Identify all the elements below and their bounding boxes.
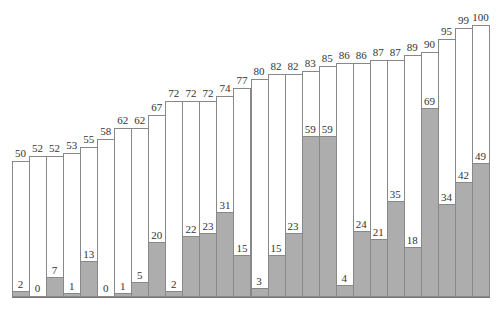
filled-value-label: 49 <box>468 151 492 162</box>
bar-filled <box>268 255 286 297</box>
x-axis-baseline <box>12 297 490 298</box>
bar-filled <box>182 236 200 297</box>
bar-total <box>63 153 81 297</box>
bar-total <box>165 101 183 297</box>
bar-total <box>370 60 388 297</box>
bar-total <box>12 161 30 297</box>
bar-total <box>268 74 286 297</box>
bar-filled <box>370 239 388 297</box>
bar-total <box>302 71 320 297</box>
bar-total <box>319 66 337 297</box>
total-value-label: 100 <box>468 12 492 23</box>
bar-total <box>80 147 98 297</box>
bar-filled <box>131 282 149 297</box>
bar-filled <box>251 288 269 297</box>
bar-filled <box>302 136 320 297</box>
bar-filled <box>438 204 456 297</box>
bar-total <box>455 28 473 297</box>
bar-total <box>148 115 166 297</box>
bar-total <box>353 63 371 297</box>
bar-total <box>233 88 251 297</box>
stacked-bar-chart: 5025205275315513580621625672072272227223… <box>0 0 502 311</box>
bar-filled <box>387 201 405 297</box>
bar-total <box>285 74 303 297</box>
bar-total <box>387 60 405 297</box>
bar-total <box>251 79 269 297</box>
bar-total <box>182 101 200 297</box>
bar-filled <box>353 231 371 297</box>
bar-filled <box>285 233 303 297</box>
bar-total <box>404 55 422 297</box>
bar-filled <box>472 163 490 297</box>
bar-filled <box>336 285 354 297</box>
bar-total <box>421 52 439 297</box>
bar-total <box>97 139 115 297</box>
bar-total <box>216 96 234 297</box>
bar-filled <box>421 108 439 297</box>
bar-filled <box>216 212 234 297</box>
bar-total <box>438 39 456 297</box>
bar-filled <box>404 247 422 297</box>
bar-filled <box>199 233 217 297</box>
bar-total <box>336 63 354 297</box>
bar-filled <box>455 182 473 297</box>
